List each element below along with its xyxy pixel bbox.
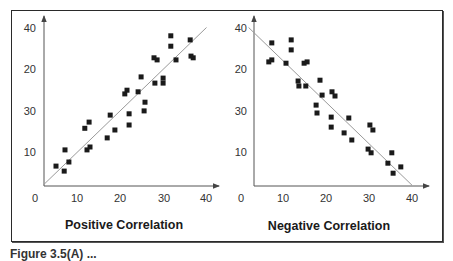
data-point [136, 89, 141, 94]
data-point [143, 100, 148, 105]
x-tick: 30 [158, 192, 170, 204]
data-point [318, 78, 323, 83]
data-point [349, 138, 354, 143]
x-tick: 10 [71, 192, 83, 204]
y-tick-labels: 10 30 20 40 [235, 22, 247, 158]
data-point [314, 103, 319, 108]
x-tick-labels: 0 10 20 30 40 [32, 192, 212, 204]
x-tick: 40 [200, 192, 212, 204]
data-point [112, 128, 117, 133]
x-tick: 10 [277, 192, 289, 204]
x-tick: 0 [32, 192, 38, 204]
data-point [127, 111, 132, 116]
data-point [296, 79, 301, 84]
data-point [303, 84, 308, 89]
data-point [139, 74, 144, 79]
data-point [369, 150, 374, 155]
data-point [367, 123, 372, 128]
data-point [269, 57, 274, 62]
chart-title: Negative Correlation [268, 219, 390, 233]
data-point [289, 37, 294, 42]
data-point [155, 57, 160, 62]
y-tick: 30 [24, 105, 36, 117]
data-point [161, 81, 166, 86]
y-tick: 20 [235, 63, 247, 75]
y-tick: 10 [24, 146, 36, 158]
data-point [87, 120, 92, 125]
y-tick: 40 [235, 22, 247, 34]
data-point [370, 128, 375, 133]
data-point [305, 59, 310, 64]
data-points [54, 33, 196, 173]
data-point [88, 145, 93, 150]
data-point [296, 84, 301, 89]
data-point [142, 108, 147, 113]
data-point [54, 164, 59, 169]
data-point [152, 81, 157, 86]
x-tick-labels: 0 10 20 30 40 [238, 192, 418, 204]
negative-correlation-chart: 0 10 20 30 40 10 30 20 40 Negative Corre… [235, 16, 429, 233]
data-point [269, 40, 274, 45]
figure-caption: Figure 3.5(A) ... [10, 247, 97, 261]
data-point [315, 111, 320, 116]
data-point [289, 47, 294, 52]
x-tick: 30 [363, 192, 375, 204]
data-point [168, 33, 173, 38]
x-tick: 20 [320, 192, 332, 204]
data-point [105, 135, 110, 140]
data-point [161, 76, 166, 81]
y-tick-labels: 10 30 20 40 [24, 22, 36, 158]
chart-title: Positive Correlation [65, 218, 183, 232]
data-point [333, 94, 338, 99]
data-point [174, 57, 179, 62]
data-point [108, 113, 113, 118]
data-point [346, 116, 351, 121]
y-tick: 20 [24, 63, 36, 75]
data-point [329, 125, 334, 130]
positive-correlation-chart: 0 10 20 30 40 10 30 20 40 Positive Corre… [24, 16, 219, 232]
data-point [191, 55, 196, 60]
y-tick: 40 [24, 22, 36, 34]
data-point [125, 88, 130, 93]
data-point [385, 161, 390, 166]
data-point [82, 126, 87, 131]
data-points [266, 37, 403, 175]
data-point [62, 169, 67, 174]
data-point [63, 147, 68, 152]
data-point [188, 37, 193, 42]
x-tick: 0 [238, 192, 244, 204]
data-point [66, 160, 71, 165]
data-point [329, 115, 334, 120]
y-tick: 10 [235, 146, 247, 158]
data-point [284, 61, 289, 66]
data-point [342, 130, 347, 135]
data-point [168, 44, 173, 49]
data-point [389, 150, 394, 155]
x-tick: 20 [114, 192, 126, 204]
data-point [391, 171, 396, 176]
y-tick: 30 [235, 105, 247, 117]
data-point [398, 164, 403, 169]
data-point [320, 93, 325, 98]
data-point [127, 123, 132, 128]
x-tick: 40 [406, 192, 418, 204]
